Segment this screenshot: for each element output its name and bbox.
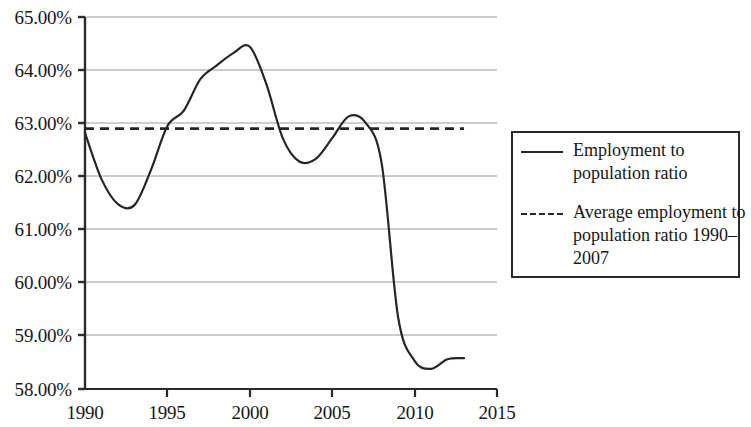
dashed-line-sample-icon	[521, 213, 563, 215]
y-tick-label-59: 59.00%	[0, 326, 72, 345]
y-tick-label-62: 62.00%	[0, 167, 72, 186]
x-tick-label-1995: 1995	[127, 403, 207, 422]
x-tick-label-2010: 2010	[375, 403, 455, 422]
y-tick-label-58: 58.00%	[0, 380, 72, 399]
solid-line-sample-icon	[521, 151, 563, 153]
y-tick-label-65: 65.00%	[0, 8, 72, 27]
y-tick-label-63: 63.00%	[0, 114, 72, 133]
gridlines	[85, 17, 497, 335]
employment-to-population-ratio-chart: 65.00% 64.00% 63.00% 62.00% 61.00% 60.00…	[0, 0, 751, 427]
y-tick-label-60: 60.00%	[0, 273, 72, 292]
y-axis	[78, 17, 85, 389]
x-tick-label-2000: 2000	[210, 403, 290, 422]
legend-label-average-ratio: Average employment to population ratio 1…	[573, 201, 748, 270]
employment-ratio-line	[85, 45, 464, 369]
x-tick-label-2015: 2015	[457, 403, 537, 422]
x-tick-label-2005: 2005	[292, 403, 372, 422]
legend-label-employment-ratio: Employment to population ratio	[573, 139, 748, 185]
y-tick-label-64: 64.00%	[0, 61, 72, 80]
x-tick-label-1990: 1990	[45, 403, 125, 422]
y-tick-label-61: 61.00%	[0, 220, 72, 239]
x-axis	[85, 389, 497, 397]
chart-legend: Employment to population ratio Average e…	[511, 131, 740, 278]
